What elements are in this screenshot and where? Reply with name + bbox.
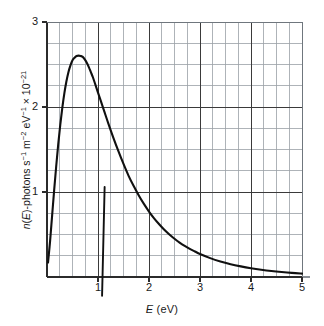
- x-tick-label: 5: [293, 281, 311, 293]
- blackbody-photon-spectrum-plot: [0, 0, 324, 326]
- y-axis-title-variable: E: [20, 213, 32, 220]
- x-axis-title-unit: (eV): [153, 303, 178, 315]
- x-tick-label: 4: [242, 281, 260, 293]
- x-tick-label: 3: [191, 281, 209, 293]
- x-axis-title: E (eV): [0, 303, 324, 315]
- x-tick-label: 1: [89, 281, 107, 293]
- y-axis-title: n(E)-photons s−1 m−2 eV−1 × 10−21: [20, 20, 32, 280]
- x-tick-label: 2: [140, 281, 158, 293]
- chart-figure: 12345123 E (eV) n(E)-photons s−1 m−2 eV−…: [0, 0, 324, 326]
- y-axis-title-symbol: n: [20, 223, 32, 229]
